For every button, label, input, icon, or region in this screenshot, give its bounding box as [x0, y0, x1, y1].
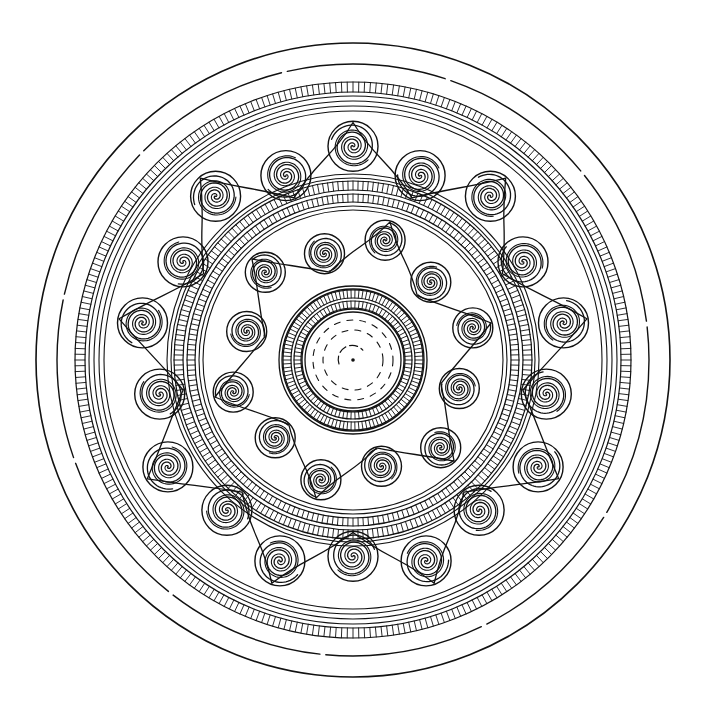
- outer-ring-spiral-icon-inner: [152, 447, 187, 484]
- outer-ring-spiral-icon-inner: [164, 242, 199, 279]
- outer-spiral-ring: [118, 121, 589, 586]
- central-medallion: [279, 286, 427, 434]
- outer-ring-spiral-icon: [208, 490, 249, 527]
- outer-ring-spiral-icon-inner: [464, 493, 498, 530]
- center-dot: [351, 358, 355, 362]
- outer-ring-spiral-icon-inner: [199, 181, 236, 215]
- outer-ring-spiral-icon-inner: [518, 449, 555, 483]
- outer-ring-spiral-icon-inner: [472, 179, 506, 216]
- outer-ring-spiral-icon-inner: [407, 542, 443, 577]
- medallion-inner-arc: [338, 345, 363, 364]
- outer-ring-spiral-icon-inner: [207, 495, 244, 529]
- outer-ring-spiral-icon: [332, 125, 373, 164]
- disc-svg: [0, 0, 705, 713]
- ornamental-disc-drawing: [0, 0, 705, 713]
- outer-ring-spiral-icon: [407, 544, 449, 582]
